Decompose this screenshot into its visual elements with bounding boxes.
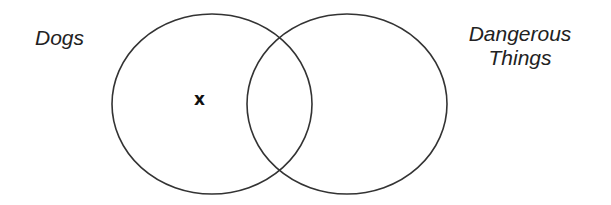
- dogs-circle: [112, 14, 312, 194]
- dogs-label: Dogs: [35, 26, 84, 50]
- x-marker: x: [194, 89, 205, 109]
- dangerous-things-label-line1: Dangerous: [455, 22, 585, 46]
- dangerous-things-label-line2: Things: [455, 46, 585, 70]
- dangerous-things-circle: [247, 14, 447, 194]
- dangerous-things-label: Dangerous Things: [455, 22, 585, 70]
